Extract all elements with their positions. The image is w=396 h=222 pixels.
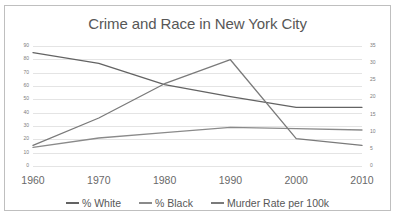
y-axis-left-tick: 50 bbox=[23, 96, 29, 101]
legend-label: Murder Rate per 100k bbox=[227, 198, 329, 209]
y-axis-left-tick: 80 bbox=[23, 56, 29, 61]
y-axis-left-tick: 70 bbox=[23, 70, 29, 75]
plot-area bbox=[33, 46, 362, 166]
y-axis-right-tick: 30 bbox=[370, 60, 376, 65]
y-axis-right-tick: 35 bbox=[370, 43, 376, 48]
series-line bbox=[33, 53, 362, 108]
y-axis-left-tick: 60 bbox=[23, 83, 29, 88]
y-axis-right-tick: 0 bbox=[370, 163, 373, 168]
y-axis-right-tick: 5 bbox=[370, 146, 373, 151]
x-axis-tick: 1970 bbox=[87, 174, 110, 186]
x-axis-tick: 1990 bbox=[219, 174, 242, 186]
y-axis-right-tick: 25 bbox=[370, 77, 376, 82]
chart-title: Crime and Race in New York City bbox=[5, 15, 390, 32]
chart-container: Crime and Race in New York City 90807060… bbox=[4, 5, 391, 211]
legend-item[interactable]: % White bbox=[66, 198, 121, 209]
x-axis-tick: 1960 bbox=[21, 174, 44, 186]
x-axis-tick: 2000 bbox=[285, 174, 308, 186]
legend-line-icon bbox=[66, 202, 79, 204]
series-lines bbox=[33, 46, 362, 166]
legend-item[interactable]: Murder Rate per 100k bbox=[211, 198, 329, 209]
x-axis: 196019701980199020002010 bbox=[33, 174, 362, 188]
x-axis-tick: 1980 bbox=[153, 174, 176, 186]
y-axis-left-tick: 0 bbox=[26, 163, 29, 168]
y-axis-left-tick: 40 bbox=[23, 110, 29, 115]
legend-item[interactable]: % Black bbox=[139, 198, 193, 209]
legend-line-icon bbox=[211, 202, 224, 204]
legend-label: % White bbox=[82, 198, 121, 209]
x-axis-tick: 2010 bbox=[350, 174, 373, 186]
y-axis-left-tick: 90 bbox=[23, 43, 29, 48]
series-line bbox=[33, 127, 362, 147]
legend-line-icon bbox=[139, 202, 152, 204]
gridline bbox=[33, 166, 362, 167]
chart-legend: % White% BlackMurder Rate per 100k bbox=[5, 198, 390, 209]
y-axis-left-tick: 30 bbox=[23, 123, 29, 128]
legend-label: % Black bbox=[155, 198, 193, 209]
y-axis-right: 35302520151050 bbox=[365, 46, 389, 166]
y-axis-left-tick: 20 bbox=[23, 136, 29, 141]
y-axis-right-tick: 20 bbox=[370, 94, 376, 99]
y-axis-left: 9080706050403020100 bbox=[7, 46, 31, 166]
y-axis-right-tick: 15 bbox=[370, 112, 376, 117]
series-line bbox=[33, 60, 362, 146]
y-axis-left-tick: 10 bbox=[23, 150, 29, 155]
y-axis-right-tick: 10 bbox=[370, 129, 376, 134]
